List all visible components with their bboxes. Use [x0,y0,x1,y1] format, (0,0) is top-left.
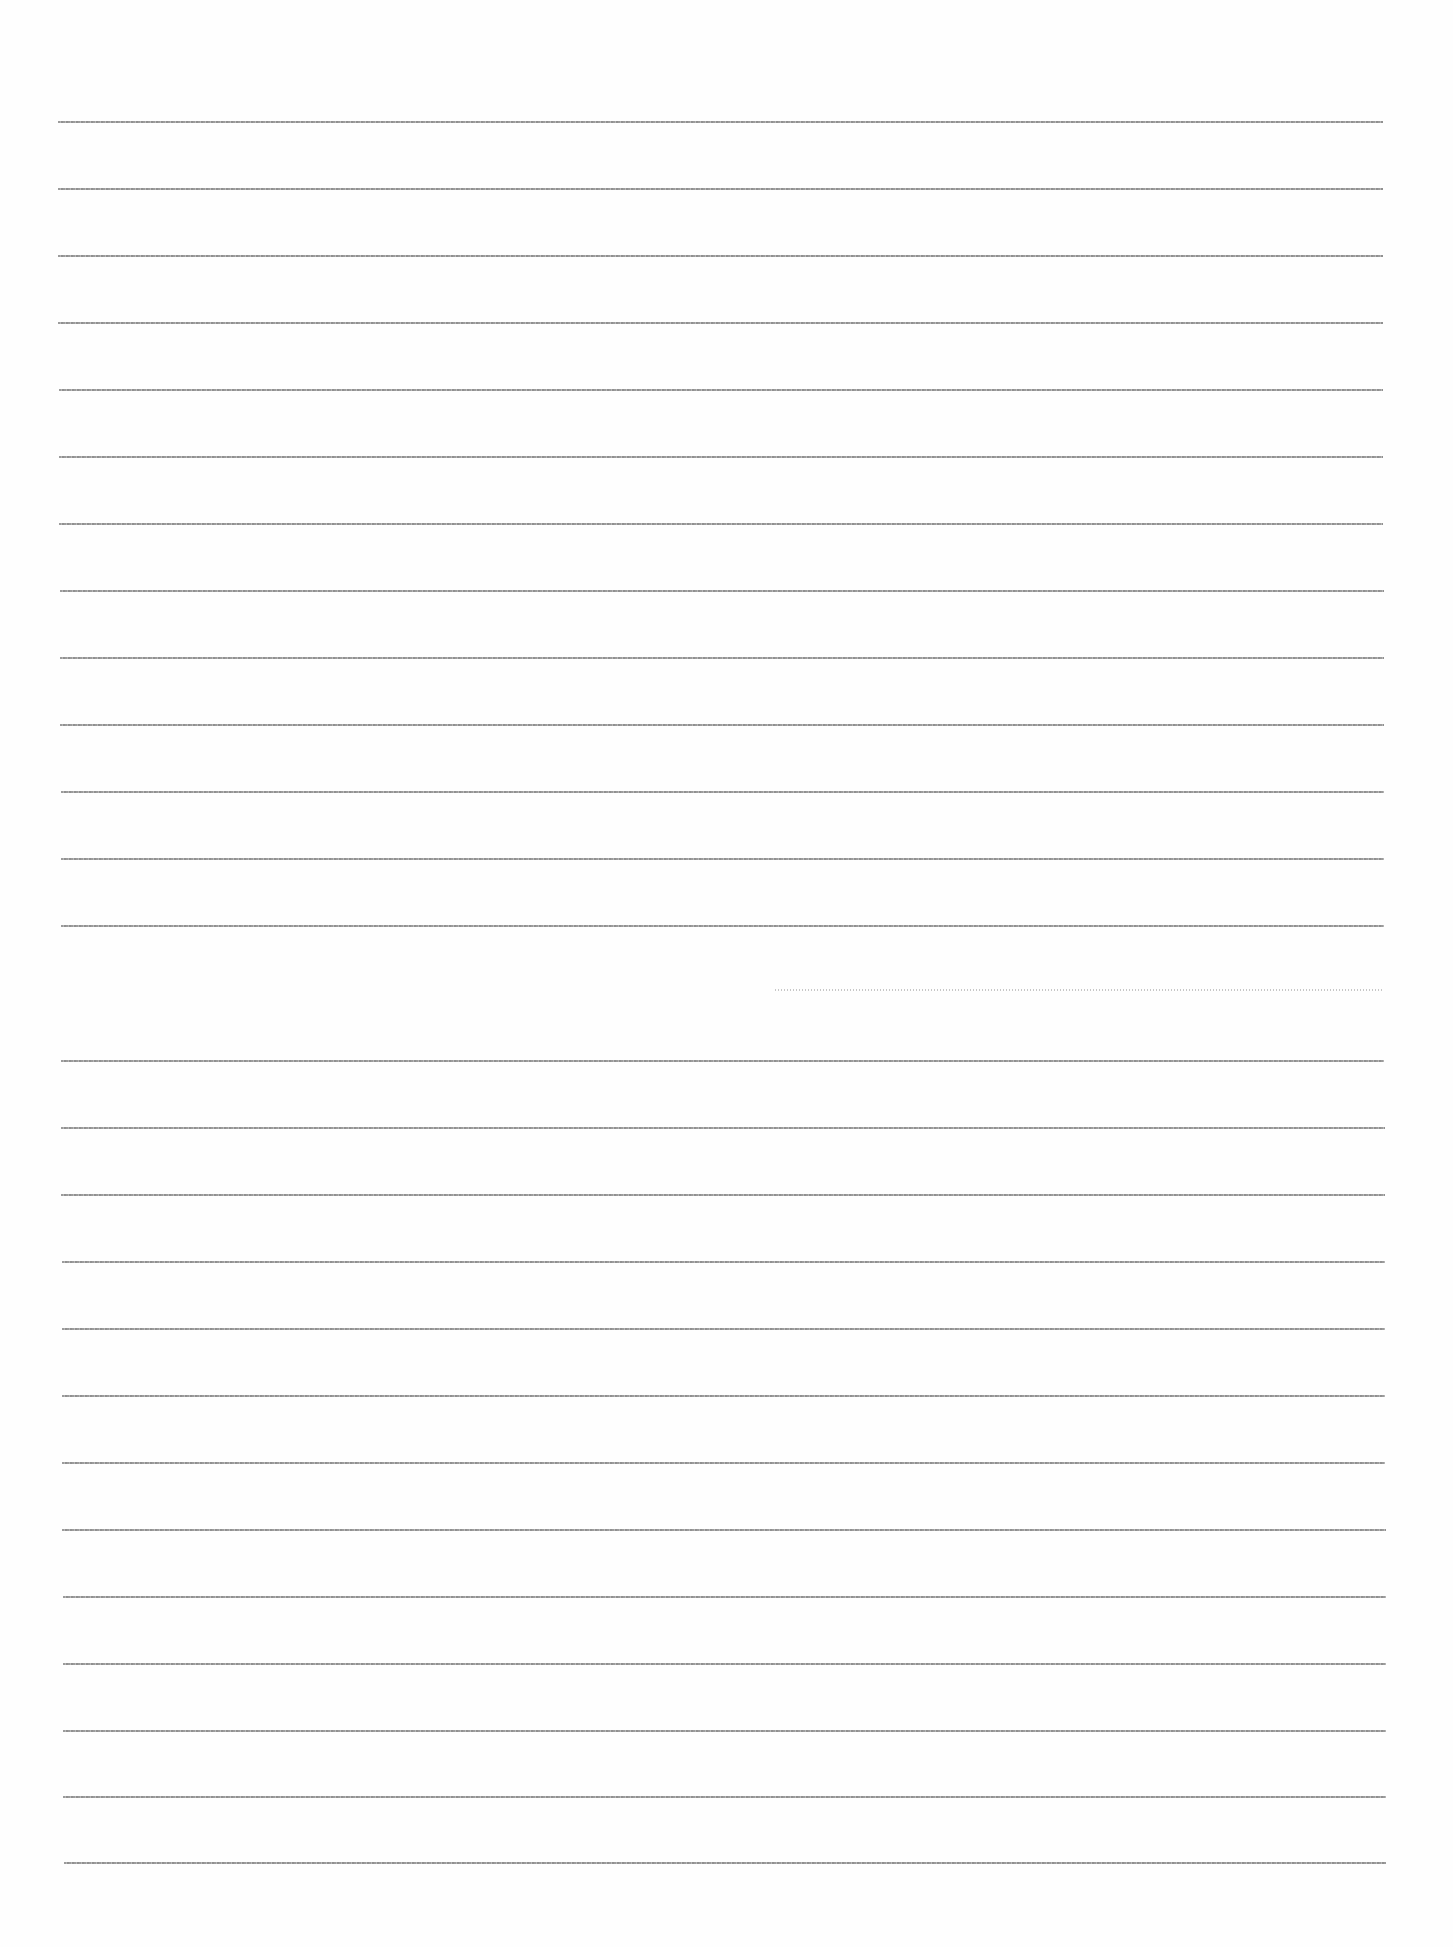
ruled-line [62,1529,1386,1531]
ruled-line [62,1261,1385,1263]
ruled-line [61,791,1384,793]
ruled-line [63,1596,1386,1598]
ruled-line [61,1127,1385,1129]
ruled-line [62,1462,1385,1464]
ruled-line [63,1796,1386,1798]
ruled-line [59,389,1383,391]
ruled-line [63,1730,1386,1732]
ruled-line [61,1060,1384,1062]
ruled-paper-page [0,0,1453,1947]
ruled-line [62,1395,1385,1397]
ruled-line [58,121,1383,123]
ruled-line [63,1663,1386,1665]
ruled-line [58,322,1383,324]
ruled-line [62,1328,1385,1330]
ruled-line [61,1194,1385,1196]
ruled-line [59,523,1383,525]
ruled-line [58,188,1383,190]
ruled-line [60,657,1384,659]
ruled-line [60,724,1384,726]
ruled-line [61,858,1384,860]
ruled-line [61,925,1384,927]
ruled-line [64,1862,1386,1864]
ruled-line [60,590,1384,592]
ruled-line [775,989,1384,991]
ruled-line [58,255,1383,257]
ruled-line [59,456,1383,458]
